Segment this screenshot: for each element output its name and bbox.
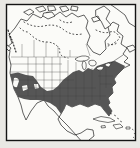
jamaica xyxy=(101,126,106,129)
puerto-rico xyxy=(126,127,130,129)
lake-huron xyxy=(89,60,96,66)
range-map-canvas xyxy=(0,0,140,148)
lake-michigan xyxy=(82,61,86,70)
range-map xyxy=(0,0,140,148)
